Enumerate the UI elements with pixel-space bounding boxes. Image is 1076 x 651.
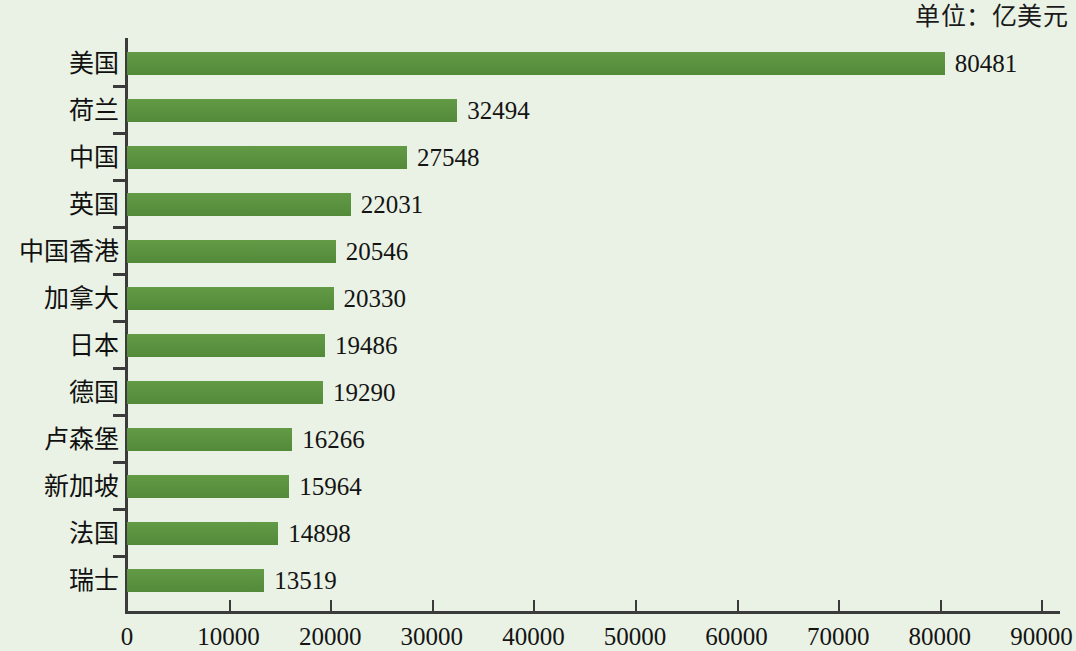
bar-row: 法国14898 (127, 510, 1057, 557)
x-axis-tick (940, 600, 942, 612)
bar-row: 荷兰32494 (127, 87, 1057, 134)
bar (127, 428, 292, 451)
bar-value-label: 19486 (335, 333, 398, 358)
bar-value-label: 80481 (955, 51, 1018, 76)
category-label: 加拿大 (0, 275, 119, 322)
bar-value-label: 13519 (274, 568, 337, 593)
x-axis-tick-label: 50000 (604, 623, 667, 651)
bar-row: 日本19486 (127, 322, 1057, 369)
x-axis-tick (635, 600, 637, 612)
category-label: 新加坡 (0, 463, 119, 510)
bar-value-label: 20546 (346, 239, 409, 264)
category-label: 美国 (0, 40, 119, 87)
category-label: 英国 (0, 181, 119, 228)
category-label: 日本 (0, 322, 119, 369)
bar-row: 中国香港20546 (127, 228, 1057, 275)
bar-value-label: 22031 (361, 192, 424, 217)
x-axis-tick-label: 40000 (502, 623, 565, 651)
category-label: 法国 (0, 510, 119, 557)
x-axis-tick-label: 90000 (1010, 623, 1073, 651)
x-axis-tick (229, 600, 231, 612)
x-axis-tick-label: 30000 (401, 623, 464, 651)
bar-chart: 单位：亿美元 美国80481荷兰32494中国27548英国22031中国香港2… (0, 0, 1076, 651)
bar-row: 新加坡15964 (127, 463, 1057, 510)
x-axis-tick (533, 600, 535, 612)
bar-row: 德国19290 (127, 369, 1057, 416)
x-axis-tick-label: 20000 (299, 623, 362, 651)
x-axis-tick (330, 600, 332, 612)
x-axis-tick-label: 80000 (909, 623, 972, 651)
bar (127, 193, 351, 216)
bar-value-label: 15964 (299, 474, 362, 499)
bar (127, 240, 336, 263)
category-label: 德国 (0, 369, 119, 416)
plot-area: 美国80481荷兰32494中国27548英国22031中国香港20546加拿大… (127, 40, 1057, 612)
bar-row: 美国80481 (127, 40, 1057, 87)
category-label: 卢森堡 (0, 416, 119, 463)
x-axis-tick (1041, 600, 1043, 612)
bar-value-label: 32494 (467, 98, 530, 123)
x-axis-tick (737, 600, 739, 612)
bar (127, 146, 407, 169)
bar-value-label: 27548 (417, 145, 480, 170)
category-label: 荷兰 (0, 87, 119, 134)
bar (127, 52, 945, 75)
category-label: 中国 (0, 134, 119, 181)
bar-value-label: 14898 (288, 521, 351, 546)
bar-row: 英国22031 (127, 181, 1057, 228)
category-label: 中国香港 (0, 228, 119, 275)
unit-caption: 单位：亿美元 (915, 2, 1068, 32)
x-axis-tick-label: 0 (121, 623, 134, 651)
category-label: 瑞士 (0, 557, 119, 604)
bar (127, 334, 325, 357)
bar (127, 569, 264, 592)
bar (127, 522, 278, 545)
bar (127, 287, 334, 310)
x-axis-tick-label: 60000 (705, 623, 768, 651)
bar-row: 加拿大20330 (127, 275, 1057, 322)
bar-row: 瑞士13519 (127, 557, 1057, 604)
bar (127, 99, 457, 122)
bar-row: 中国27548 (127, 134, 1057, 181)
bar (127, 475, 289, 498)
bar-row: 卢森堡16266 (127, 416, 1057, 463)
bar (127, 381, 323, 404)
x-axis-tick (838, 600, 840, 612)
bar-value-label: 20330 (344, 286, 407, 311)
x-axis-tick (432, 600, 434, 612)
x-axis-tick-label: 70000 (807, 623, 870, 651)
bar-value-label: 16266 (302, 427, 365, 452)
x-axis-tick-label: 10000 (197, 623, 260, 651)
bar-value-label: 19290 (333, 380, 396, 405)
